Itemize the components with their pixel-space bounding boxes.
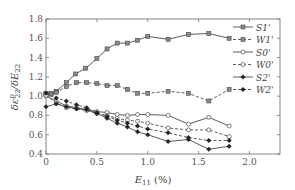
legend-label: S2'	[256, 73, 270, 83]
data-point	[227, 124, 231, 128]
data-point	[227, 138, 232, 143]
data-point	[207, 99, 211, 103]
y-axis-label: δεp22/δE22	[8, 64, 22, 110]
x-tick-label: 1.0	[141, 157, 156, 167]
data-point	[125, 87, 129, 91]
data-point	[64, 99, 69, 104]
data-point	[125, 113, 129, 117]
data-point	[75, 81, 79, 85]
circle-marker-icon	[241, 63, 245, 67]
data-point	[105, 47, 109, 51]
data-point	[207, 115, 211, 119]
y-tick-label: 1.0	[29, 91, 44, 101]
y-tick-label: 1.8	[29, 14, 44, 24]
data-point	[227, 87, 231, 91]
y-tick-label: 1.2	[29, 72, 43, 82]
series-w1-prime	[44, 81, 231, 103]
legend-label: W0'	[256, 60, 273, 70]
data-point	[166, 89, 170, 93]
x-tick-label: 1.5	[191, 157, 206, 167]
legend-label: S0'	[256, 48, 270, 58]
data-point	[54, 90, 58, 94]
data-point	[125, 41, 129, 45]
data-point	[206, 138, 211, 143]
y-tick-label: 0.8	[29, 110, 44, 120]
diamond-marker-icon	[241, 87, 246, 92]
square-marker-icon	[241, 25, 245, 29]
y-tick-label: 0.6	[29, 130, 44, 140]
data-point	[166, 139, 171, 144]
data-point	[146, 91, 150, 95]
x-axis-label: E11 (%)	[134, 174, 172, 187]
data-point	[64, 81, 68, 85]
data-point	[186, 91, 190, 95]
data-point	[74, 72, 78, 76]
series-group	[44, 31, 232, 151]
data-point	[146, 34, 150, 38]
chart: 00.51.01.52.0 0.40.60.81.01.21.41.61.8 S…	[0, 0, 295, 190]
y-tick-label: 1.6	[29, 33, 44, 43]
legend-item: S1'	[233, 23, 270, 33]
data-point	[115, 112, 119, 116]
y-tick-label: 0.4	[29, 149, 44, 159]
data-point	[136, 112, 140, 116]
data-point	[145, 132, 150, 137]
data-point	[146, 121, 150, 125]
data-point	[135, 124, 140, 129]
data-point	[227, 36, 231, 40]
circle-marker-icon	[241, 50, 245, 54]
data-point	[136, 91, 140, 95]
legend: S1'W1'S0'W0'S2'W2'	[233, 23, 273, 96]
data-point	[206, 147, 211, 152]
legend-item: S0'	[233, 48, 270, 58]
data-point	[115, 84, 119, 88]
data-point	[44, 104, 49, 109]
data-point	[145, 127, 150, 132]
data-point	[207, 31, 211, 35]
legend-item: S2'	[233, 73, 270, 83]
data-point	[85, 81, 89, 85]
x-tick-label: 0.5	[90, 157, 105, 167]
legend-label: S1'	[256, 23, 270, 33]
data-point	[227, 144, 232, 149]
data-point	[64, 85, 68, 89]
x-tick-label: 0	[43, 157, 49, 167]
data-point	[115, 41, 119, 45]
data-point	[95, 82, 99, 86]
legend-item: W1'	[233, 35, 273, 45]
square-marker-icon	[241, 38, 245, 42]
data-point	[186, 32, 190, 36]
data-point	[105, 84, 109, 88]
legend-label: W2'	[256, 85, 273, 95]
series-s1-prime	[44, 31, 231, 95]
data-point	[166, 126, 170, 130]
data-point	[84, 66, 88, 70]
y-tick-label: 1.4	[29, 53, 44, 63]
data-point	[136, 38, 140, 42]
data-point	[135, 130, 140, 135]
diamond-marker-icon	[241, 75, 246, 80]
data-point	[95, 57, 99, 61]
data-point	[186, 128, 190, 132]
data-point	[136, 119, 140, 123]
data-point	[166, 37, 170, 41]
legend-item: W2'	[233, 85, 273, 95]
data-point	[166, 113, 170, 117]
legend-label: W1'	[256, 35, 273, 45]
data-point	[207, 128, 211, 132]
data-point	[186, 122, 190, 126]
data-point	[146, 112, 150, 116]
data-point	[166, 130, 171, 135]
x-tick-label: 2.0	[242, 157, 257, 167]
legend-item: W0'	[233, 60, 273, 70]
